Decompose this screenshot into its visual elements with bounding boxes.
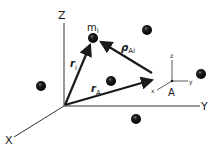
mass-ball <box>36 81 46 91</box>
point-a-label: A <box>168 87 175 98</box>
local-x-label: x <box>151 87 155 94</box>
vector-label-r-i: ri <box>70 58 77 72</box>
y-axis-label: Y <box>200 100 208 113</box>
global-axes: Z Y X <box>5 9 208 147</box>
mass-ball <box>196 69 206 79</box>
local-z-label: z <box>170 52 173 59</box>
vector-r-i <box>65 45 90 105</box>
point-a <box>171 80 174 83</box>
vector-label-rho-ai: ρAi <box>121 42 135 55</box>
x-axis-label: X <box>5 134 13 147</box>
masses <box>36 25 206 124</box>
local-y-label: y <box>189 78 193 86</box>
x-axis <box>14 106 64 137</box>
mass-ball <box>131 114 141 124</box>
vectors <box>65 42 152 105</box>
z-axis-label: Z <box>58 9 66 22</box>
mass-ball <box>142 25 152 35</box>
mass-ball <box>106 76 116 86</box>
particle-system-diagram: Z Y X mi ri rA ρAi z y x A <box>0 0 213 151</box>
vector-label-r-a: rA <box>91 83 101 97</box>
local-frame-a: z y x A <box>151 52 193 98</box>
